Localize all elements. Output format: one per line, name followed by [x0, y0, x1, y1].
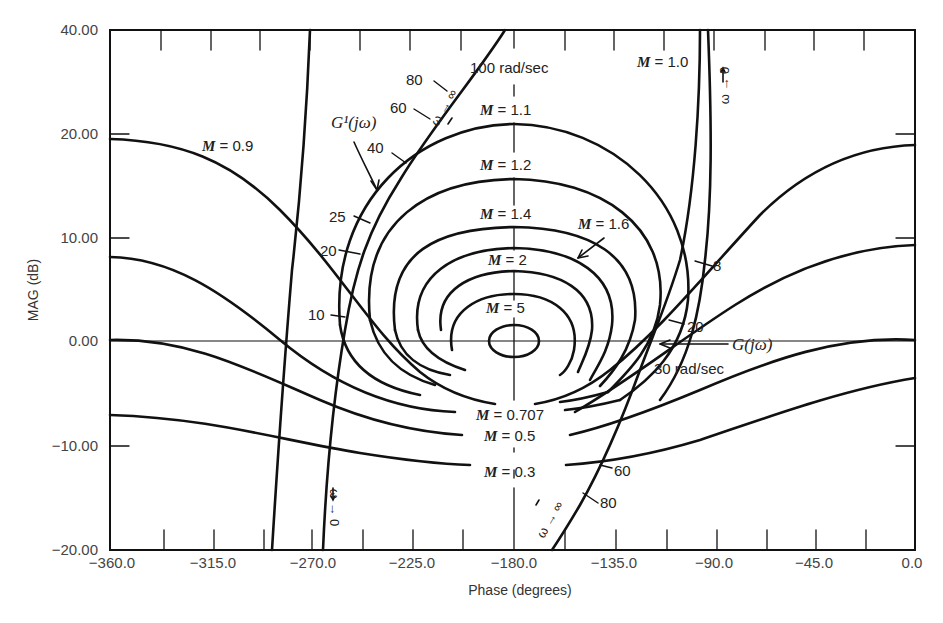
m-symbol: M [488, 252, 501, 268]
freq-mark-60-g: 60 [614, 462, 631, 479]
freq-mark-80-g1: 80 [406, 71, 423, 88]
m-value: = 1.6 [596, 215, 630, 232]
m-symbol: M [480, 157, 493, 173]
m-value: = 1.4 [498, 205, 532, 222]
m-value: = 0.5 [502, 427, 536, 444]
m-symbol: M [480, 102, 493, 118]
contour-m-1.0 [272, 30, 310, 550]
x-tick-label: −45.0 [774, 554, 854, 571]
x-tick-label: −180.0 [474, 554, 554, 571]
x-axis-title: Phase (degrees) [400, 582, 640, 598]
m-symbol: M [476, 407, 489, 423]
y-tick-label: 10.00 [6, 229, 98, 246]
m-value: = 5 [504, 299, 525, 316]
label-m-5: M = 5 [486, 299, 525, 317]
label-m-1.0: M = 1.0 [637, 53, 688, 71]
y-tick-marks [110, 134, 915, 446]
m-value: = 1.2 [498, 156, 532, 173]
label-g-jw: G(jω) [732, 335, 772, 355]
label-m-1.4: M = 1.4 [480, 205, 531, 223]
m-value: = 1.0 [655, 53, 689, 70]
m-value: = 0.707 [494, 406, 544, 423]
y-tick-label: 40.00 [6, 21, 98, 38]
m-symbol: M [480, 206, 493, 222]
x-tick-label: 0.0 [872, 554, 943, 571]
x-tick-label: −90.0 [674, 554, 754, 571]
m-symbol: M [486, 300, 499, 316]
m-symbol: M [484, 464, 497, 480]
m-value: = 0.3 [502, 463, 536, 480]
m-symbol: M [484, 428, 497, 444]
m-symbol: M [637, 54, 650, 70]
freq-mark-40-g1: 40 [367, 139, 384, 156]
label-m-1.6: M = 1.6 [578, 215, 629, 233]
label-30-rad-sec: 30 rad/sec [654, 360, 724, 377]
m-value: = 0.9 [220, 137, 254, 154]
m-value: = 1.1 [498, 101, 532, 118]
freq-mark-20-g1: 20 [320, 242, 337, 259]
contour-m-0.9-right [535, 145, 915, 404]
label-omega-to-zero-g1: ω → 0 [327, 489, 342, 527]
nichols-chart [0, 0, 943, 623]
m-symbol: M [578, 216, 591, 232]
freq-mark-60-g1: 60 [390, 99, 407, 116]
label-m-0.3: M = 0.3 [484, 463, 535, 481]
freq-mark-10-g1: 10 [308, 306, 325, 323]
m-value: = 2 [506, 251, 527, 268]
label-omega-to-zero-g: ω → 0 [717, 67, 732, 105]
label-m-2: M = 2 [488, 251, 527, 269]
curve-g1 [323, 30, 505, 550]
label-m-1.1: M = 1.1 [480, 101, 531, 119]
x-tick-label: −360.0 [72, 554, 152, 571]
m-symbol: M [202, 138, 215, 154]
y-tick-label: 0.00 [6, 332, 98, 349]
label-m-0.707: M = 0.707 [476, 406, 544, 424]
label-m-0.5: M = 0.5 [484, 427, 535, 445]
freq-mark-80-g: 80 [600, 494, 617, 511]
freq-mark-25-g1: 25 [329, 208, 346, 225]
label-m-0.9: M = 0.9 [202, 137, 253, 155]
label-g1-jw: G¹(jω) [331, 113, 376, 133]
label-m-1.2: M = 1.2 [480, 156, 531, 174]
x-tick-label: −225.0 [372, 554, 452, 571]
y-tick-label: −10.00 [6, 437, 98, 454]
contour-m-left-3 [110, 415, 470, 465]
x-tick-label: −135.0 [574, 554, 654, 571]
y-axis-title: MAG (dB) [25, 245, 41, 335]
x-tick-label: −270.0 [273, 554, 353, 571]
y-tick-label: 20.00 [6, 125, 98, 142]
freq-mark-20-g: 20 [687, 318, 704, 335]
label-100-rad-sec: 100 rad/sec [470, 59, 548, 76]
x-tick-label: −315.0 [173, 554, 253, 571]
freq-mark-8-g: 8 [713, 257, 721, 274]
